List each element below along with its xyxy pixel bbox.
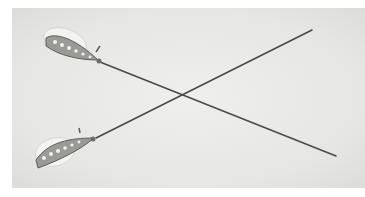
hatpins-illustration [0, 0, 365, 197]
hatpin-upper [40, 22, 336, 156]
